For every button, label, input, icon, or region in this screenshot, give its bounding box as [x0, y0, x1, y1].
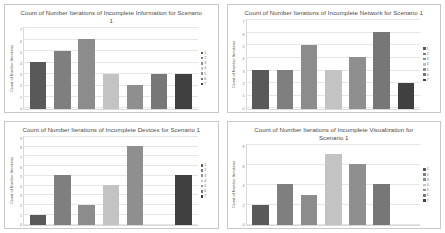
legend-item[interactable]: 3: [201, 174, 217, 178]
legend-swatch: [201, 180, 204, 183]
legend-swatch: [423, 68, 426, 71]
legend-swatch: [423, 79, 426, 82]
bar[interactable]: [252, 205, 268, 225]
legend-label: 1: [204, 163, 206, 167]
bar[interactable]: [175, 175, 191, 225]
legend-item[interactable]: 5: [423, 188, 439, 192]
legend-label: 2: [427, 173, 429, 177]
bar-slot: [273, 144, 297, 225]
bar[interactable]: [398, 83, 414, 109]
chart-title: Count of Number Iterations of Incomplete…: [5, 5, 218, 27]
legend-label: 4: [204, 66, 206, 70]
legend-label: 4: [204, 179, 206, 183]
chart-title: Count of Number Iterations of Incomplete…: [228, 122, 441, 144]
legend-swatch: [423, 178, 426, 181]
chart-panel-incomplete-information: Count of Number Iterations of Incomplete…: [4, 4, 219, 113]
chart-legend: 1234567: [198, 136, 217, 226]
legend-item[interactable]: 5: [201, 184, 217, 188]
legend-item[interactable]: 6: [423, 73, 439, 77]
legend-item[interactable]: 4: [201, 66, 217, 70]
legend-item[interactable]: 5: [201, 72, 217, 76]
legend-item[interactable]: 3: [423, 57, 439, 61]
bar[interactable]: [54, 175, 70, 225]
legend-label: 7: [204, 82, 206, 86]
legend-swatch: [201, 174, 204, 177]
bar[interactable]: [277, 184, 293, 225]
legend-item[interactable]: 2: [423, 52, 439, 56]
legend-item[interactable]: 3: [423, 178, 439, 182]
legend-label: 7: [427, 199, 429, 203]
legend-swatch: [423, 63, 426, 66]
legend-label: 4: [427, 183, 429, 187]
y-tick-label: 6: [20, 40, 22, 44]
bar[interactable]: [30, 215, 46, 225]
bar[interactable]: [103, 74, 119, 109]
legend-label: 5: [204, 184, 206, 188]
legend-item[interactable]: 6: [201, 77, 217, 81]
bar[interactable]: [349, 164, 365, 225]
y-tick-label: 2: [20, 205, 22, 209]
bar[interactable]: [78, 39, 94, 109]
y-tick-label: 5: [243, 46, 245, 50]
legend-item[interactable]: 1: [201, 163, 217, 167]
bar[interactable]: [325, 154, 341, 225]
bar[interactable]: [301, 45, 317, 109]
bar-slot: [26, 136, 50, 225]
bar[interactable]: [103, 185, 119, 225]
legend-item[interactable]: 7: [423, 78, 439, 82]
bar[interactable]: [78, 205, 94, 225]
y-axis-label-wrap: Count of Number Iterations: [230, 144, 239, 226]
y-tick-label: 3: [243, 70, 245, 74]
legend-item[interactable]: 2: [423, 173, 439, 177]
y-tick-label: 9: [20, 137, 22, 141]
y-tick-label: 8: [243, 146, 245, 150]
legend-label: 3: [427, 57, 429, 61]
bar-slot: [147, 136, 171, 225]
bar-slot: [99, 136, 123, 225]
y-axis-label: Count of Number Iterations: [9, 45, 14, 92]
y-tick-label: 3: [20, 74, 22, 78]
legend-item[interactable]: 4: [423, 183, 439, 187]
bar-slot: [147, 27, 171, 108]
legend-item[interactable]: 1: [423, 47, 439, 51]
legend-swatch: [201, 185, 204, 188]
legend-item[interactable]: 7: [423, 199, 439, 203]
bar-slot: [123, 27, 147, 108]
bar[interactable]: [349, 57, 365, 108]
legend-swatch: [201, 190, 204, 193]
bar[interactable]: [175, 74, 191, 109]
legend-item[interactable]: 7: [201, 194, 217, 198]
legend-item[interactable]: 2: [201, 56, 217, 60]
bar[interactable]: [127, 146, 143, 225]
legend-item[interactable]: 5: [423, 68, 439, 72]
bar[interactable]: [151, 74, 167, 109]
legend-swatch: [423, 53, 426, 56]
legend-item[interactable]: 4: [201, 179, 217, 183]
bar[interactable]: [30, 62, 46, 108]
legend-item[interactable]: 3: [201, 61, 217, 65]
y-axis-label: Count of Number Iterations: [232, 41, 237, 88]
bar[interactable]: [373, 184, 389, 225]
bar[interactable]: [277, 70, 293, 108]
plot-area: [23, 27, 198, 109]
legend-label: 3: [204, 174, 206, 178]
legend-swatch: [423, 73, 426, 76]
bar-slot: [50, 136, 74, 225]
bar[interactable]: [127, 85, 143, 108]
bar[interactable]: [54, 51, 70, 109]
legend-item[interactable]: 6: [201, 189, 217, 193]
legend-item[interactable]: 6: [423, 193, 439, 197]
bar-slot: [321, 144, 345, 225]
bar[interactable]: [373, 32, 389, 109]
bar[interactable]: [325, 70, 341, 108]
legend-item[interactable]: 1: [201, 51, 217, 55]
bar[interactable]: [301, 195, 317, 225]
legend-item[interactable]: 4: [423, 62, 439, 66]
legend-item[interactable]: 2: [201, 168, 217, 172]
legend-swatch: [423, 184, 426, 187]
legend-item[interactable]: 1: [423, 167, 439, 171]
legend-item[interactable]: 7: [201, 82, 217, 86]
y-axis-label-wrap: Count of Number Iterations: [7, 27, 16, 109]
bar[interactable]: [252, 70, 268, 108]
bar-slot: [249, 19, 273, 108]
